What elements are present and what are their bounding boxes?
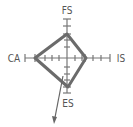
label-left: CA (8, 53, 21, 64)
profile-shape (35, 34, 86, 87)
label-bottom: ES (62, 98, 74, 109)
radar-diagram: FS CA IS ES (0, 0, 133, 127)
arrow-head-icon (52, 116, 57, 124)
label-top: FS (62, 5, 73, 16)
label-right: IS (117, 53, 126, 64)
